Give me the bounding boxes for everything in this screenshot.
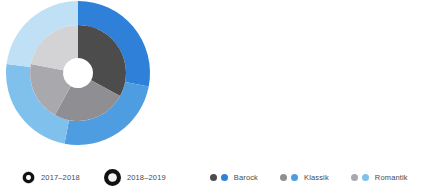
donut-chart-svg [0, 0, 215, 158]
legend-swatch-pair-barock [210, 174, 228, 181]
legend-swatch-inner-barock [210, 174, 217, 181]
legend-label-2018-2019: 2018–2019 [127, 174, 166, 182]
legend-label-klassik: Klassik [304, 174, 329, 182]
legend-swatch-inner-klassik [280, 174, 287, 181]
legend-swatch-inner-romantik [351, 174, 358, 181]
legend-label-romantik: Romantik [375, 174, 408, 182]
legend-swatch-outer-romantik [362, 174, 369, 181]
legend-item-barock[interactable]: Barock [210, 174, 258, 182]
legend-label-2017-2018: 2017–2018 [41, 174, 80, 182]
legend-label-barock: Barock [234, 174, 258, 182]
thick-ring-marker-icon [104, 169, 121, 186]
legend-item-2018-2019[interactable]: 2018–2019 [104, 169, 166, 186]
chart-legend: 2017–2018 2018–2019 Barock [0, 160, 429, 195]
chart-page: 2017–2018 2018–2019 Barock [0, 0, 429, 195]
legend-category-group: Barock Klassik Romantik [210, 174, 429, 182]
legend-item-2017-2018[interactable]: 2017–2018 [22, 171, 80, 184]
donut-chart [0, 0, 215, 158]
legend-swatch-outer-barock [221, 174, 228, 181]
legend-swatch-pair-romantik [351, 174, 369, 181]
legend-item-klassik[interactable]: Klassik [280, 174, 329, 182]
legend-swatch-outer-klassik [291, 174, 298, 181]
legend-swatch-pair-klassik [280, 174, 298, 181]
outer-ring-2018-2019 [6, 1, 150, 145]
legend-item-romantik[interactable]: Romantik [351, 174, 408, 182]
legend-ring-group: 2017–2018 2018–2019 [22, 169, 166, 186]
inner-ring-2017-2018 [30, 25, 126, 121]
thin-ring-marker-icon [22, 171, 35, 184]
